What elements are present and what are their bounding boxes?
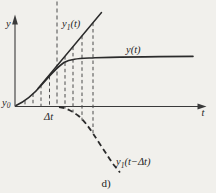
step-size-label: Δt — [43, 111, 54, 122]
shifted-label-args: (t−Δt) — [124, 156, 151, 168]
origin-label-sub: 0 — [7, 101, 11, 110]
solution-curve-label: y(t) — [125, 44, 141, 56]
figure-caption: d) — [102, 177, 112, 190]
tangent-label-args: (t) — [70, 18, 80, 30]
figure-page: y y0 t Δt y1(t) y(t) y1(t−Δt) d) — [0, 0, 216, 193]
y-axis-label: y — [5, 18, 11, 29]
figure-canvas: y y0 t Δt y1(t) y(t) y1(t−Δt) d) — [0, 0, 216, 193]
paper-background — [0, 0, 216, 193]
